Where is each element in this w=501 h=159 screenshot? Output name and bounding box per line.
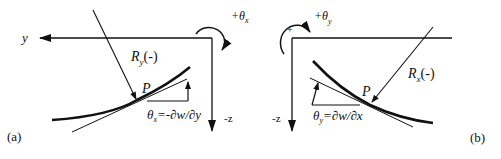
z-axis-label: -z — [272, 112, 281, 124]
panel-b: + +θy Rx(-) P θy=∂w/∂x -z (b) — [272, 9, 485, 145]
caption-b: (b) — [470, 130, 485, 145]
z-axis-label: -z — [224, 112, 233, 124]
radius-symbol: R — [407, 66, 417, 81]
curvature-diagram: y -z +θx Ry(-) P θx=-∂w/∂y (a) + — [0, 0, 501, 159]
radius-label: Rx(-) — [407, 66, 435, 84]
rotation-arrow-icon — [196, 28, 225, 50]
rotation-subscript: x — [244, 16, 249, 25]
rotation-symbol: +θ — [314, 9, 328, 23]
slope-expression: =∂w/∂x — [323, 108, 363, 123]
slope-label: θx=-∂w/∂y — [147, 107, 201, 124]
rotation-symbol: +θ — [231, 9, 245, 23]
y-axis-label: y — [20, 30, 28, 45]
caption-a: (a) — [7, 129, 21, 144]
radius-label: Ry(-) — [130, 49, 158, 67]
radius-sign: (-) — [144, 49, 158, 65]
slope-label: θy=∂w/∂x — [313, 108, 363, 125]
rotation-label: +θy — [314, 9, 332, 26]
point-label: P — [361, 84, 371, 99]
rotation-sign: + — [287, 24, 293, 35]
rotation-label: +θx — [231, 9, 249, 25]
radius-arrow-icon — [93, 10, 136, 99]
point-label: P — [141, 81, 151, 96]
radius-sign: (-) — [421, 66, 435, 82]
slope-expression: =-∂w/∂y — [157, 107, 201, 122]
rotation-arrow-icon — [280, 25, 310, 54]
tangent-line — [72, 79, 187, 132]
panel-a: y -z +θx Ry(-) P θx=-∂w/∂y (a) — [7, 9, 249, 144]
rotation-subscript: y — [327, 17, 332, 26]
radius-symbol: R — [130, 49, 140, 64]
angle-arrow-icon — [312, 83, 318, 105]
